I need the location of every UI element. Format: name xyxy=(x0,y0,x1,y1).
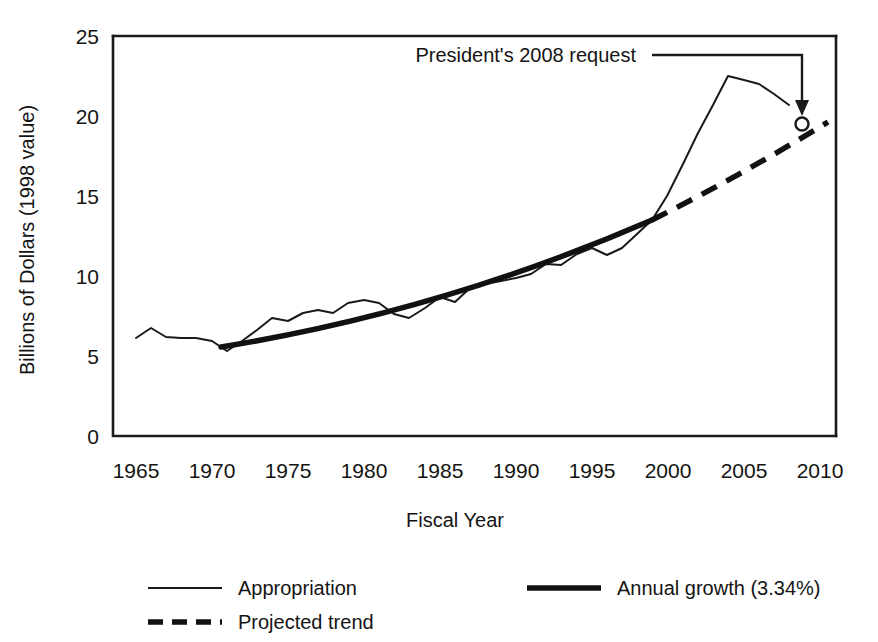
line-chart-svg: Billions of Dollars (1998 value) 25 20 1… xyxy=(0,0,878,642)
x-tick-label-2005: 2005 xyxy=(721,459,768,482)
x-tick-label-1965: 1965 xyxy=(113,459,160,482)
y-tick-label-10: 10 xyxy=(76,265,99,288)
x-axis-title: Fiscal Year xyxy=(406,509,504,531)
x-tick-label-1990: 1990 xyxy=(493,459,540,482)
annotation-label: President's 2008 request xyxy=(415,44,636,66)
x-tick-label-1985: 1985 xyxy=(417,459,464,482)
x-tick-label-1980: 1980 xyxy=(341,459,388,482)
y-axis-title: Billions of Dollars (1998 value) xyxy=(16,105,38,375)
chart-background xyxy=(0,0,878,642)
y-tick-label-0: 0 xyxy=(87,425,99,448)
legend-label-annual-growth: Annual growth (3.34%) xyxy=(617,577,820,599)
x-tick-label-1995: 1995 xyxy=(569,459,616,482)
y-tick-label-15: 15 xyxy=(76,185,99,208)
legend-label-appropriation: Appropriation xyxy=(238,577,357,599)
x-tick-label-2010: 2010 xyxy=(797,459,844,482)
y-tick-label-25: 25 xyxy=(76,25,99,48)
presidents-request-marker xyxy=(796,118,809,131)
legend-label-projected-trend: Projected trend xyxy=(238,611,374,633)
x-tick-label-2000: 2000 xyxy=(645,459,692,482)
y-tick-label-5: 5 xyxy=(87,345,99,368)
chart-figure: Billions of Dollars (1998 value) 25 20 1… xyxy=(0,0,878,642)
y-tick-label-20: 20 xyxy=(76,105,99,128)
x-tick-label-1975: 1975 xyxy=(265,459,312,482)
x-tick-label-1970: 1970 xyxy=(189,459,236,482)
